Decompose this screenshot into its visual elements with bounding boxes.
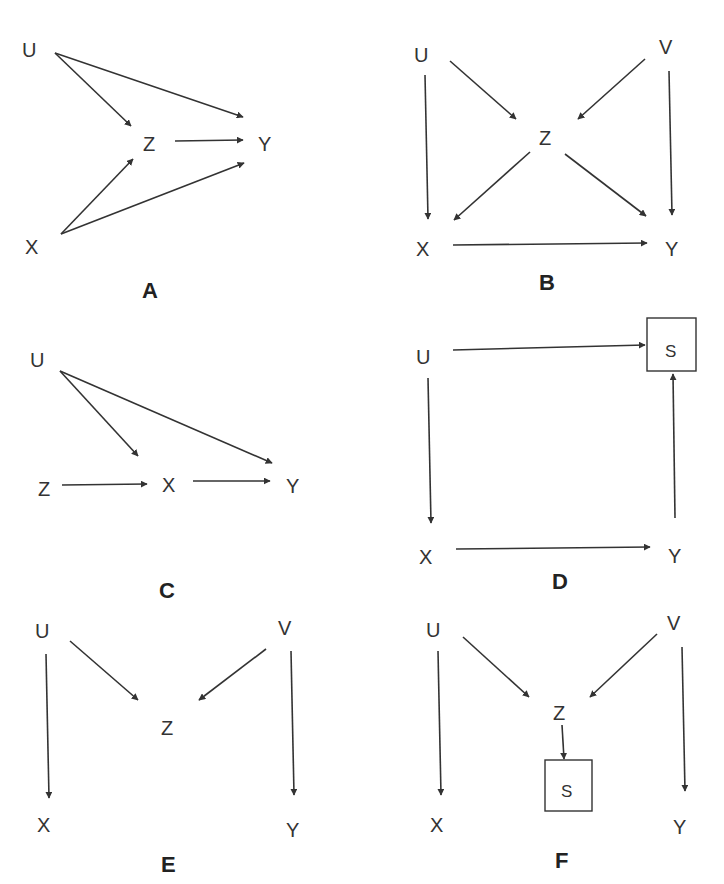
edge-v-z bbox=[199, 649, 266, 700]
edge-u-s bbox=[453, 345, 645, 350]
edge-y-s bbox=[673, 374, 675, 518]
panel-b: U V Z X Y B bbox=[414, 36, 678, 295]
edge-v-y bbox=[669, 71, 672, 215]
panel-label-f: F bbox=[555, 848, 568, 873]
edge-x-y bbox=[453, 243, 647, 245]
edge-u-x bbox=[428, 378, 431, 523]
node-y: Y bbox=[665, 238, 678, 260]
node-y: Y bbox=[286, 475, 299, 497]
node-u: U bbox=[35, 620, 49, 642]
node-x: X bbox=[25, 236, 38, 258]
edge-z-x bbox=[454, 152, 530, 220]
node-x: X bbox=[430, 814, 443, 836]
node-y: Y bbox=[673, 816, 686, 838]
edge-u-y bbox=[60, 371, 272, 463]
edge-v-y bbox=[291, 651, 294, 795]
node-v: V bbox=[278, 617, 292, 639]
edge-u-z bbox=[450, 61, 516, 119]
edge-z-x bbox=[62, 484, 147, 485]
panel-label-e: E bbox=[161, 852, 176, 877]
panel-label-b: B bbox=[539, 270, 555, 295]
node-x: X bbox=[419, 546, 432, 568]
node-x: X bbox=[416, 238, 429, 260]
panel-f: U V Z S X Y F bbox=[426, 612, 686, 873]
edge-u-x bbox=[46, 654, 49, 798]
node-z: Z bbox=[553, 702, 565, 724]
edge-u-x bbox=[60, 371, 138, 456]
node-s: S bbox=[665, 342, 676, 361]
panel-label-a: A bbox=[142, 278, 158, 303]
node-u: U bbox=[30, 349, 44, 371]
node-u: U bbox=[426, 619, 440, 641]
node-y: Y bbox=[668, 545, 681, 567]
panel-c: U Z X Y C bbox=[30, 349, 299, 603]
edge-z-s bbox=[562, 725, 564, 759]
node-u: U bbox=[416, 346, 430, 368]
panel-label-d: D bbox=[552, 569, 568, 594]
panel-d: U S X Y D bbox=[416, 318, 696, 594]
edge-u-z bbox=[70, 641, 138, 700]
node-u: U bbox=[22, 39, 36, 61]
node-z: Z bbox=[143, 133, 155, 155]
edge-v-z bbox=[590, 634, 657, 697]
edge-x-z bbox=[61, 159, 133, 234]
node-z: Z bbox=[539, 127, 551, 149]
node-y: Y bbox=[258, 133, 271, 155]
edge-v-z bbox=[578, 59, 645, 119]
panel-a: U Z Y X A bbox=[22, 39, 271, 303]
edge-z-y bbox=[175, 140, 243, 141]
node-x: X bbox=[37, 814, 50, 836]
edge-u-x bbox=[425, 75, 428, 219]
causal-dag-figure: U Z Y X A U V Z X Y B U Z X Y C bbox=[0, 0, 724, 884]
node-x: X bbox=[162, 474, 175, 496]
node-s: S bbox=[561, 782, 572, 801]
edge-x-y bbox=[61, 163, 244, 234]
edge-u-z bbox=[463, 637, 529, 697]
node-v: V bbox=[659, 36, 673, 58]
node-z: Z bbox=[38, 478, 50, 500]
panel-label-c: C bbox=[159, 578, 175, 603]
edge-z-y bbox=[565, 154, 646, 216]
edge-v-y bbox=[682, 647, 685, 791]
node-u: U bbox=[414, 44, 428, 66]
edge-u-x bbox=[438, 651, 441, 795]
node-v: V bbox=[667, 612, 681, 634]
edge-x-y bbox=[456, 547, 650, 549]
edge-u-y bbox=[55, 53, 243, 117]
node-z: Z bbox=[161, 717, 173, 739]
panel-e: U V Z X Y E bbox=[35, 617, 299, 877]
edge-u-z bbox=[55, 53, 131, 126]
node-y: Y bbox=[286, 819, 299, 841]
